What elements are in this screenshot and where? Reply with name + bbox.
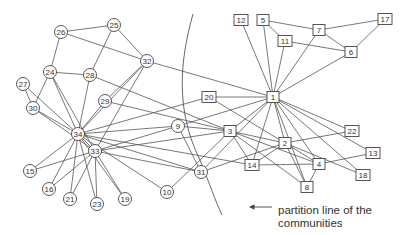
node-label: 21 (66, 195, 75, 204)
node-34: 34 (72, 128, 85, 141)
node-label: 11 (281, 37, 290, 46)
node-label: 34 (74, 130, 83, 139)
node-label: 15 (26, 167, 35, 176)
node-label: 20 (205, 93, 214, 102)
edge-3-4 (230, 131, 319, 164)
node-9: 9 (172, 120, 185, 133)
node-label: 23 (93, 200, 102, 209)
partition-annotation: partition line of the communities (278, 204, 406, 230)
edge-1-2 (273, 97, 285, 143)
node-label: 26 (57, 28, 66, 37)
node-6: 6 (345, 47, 357, 58)
node-19: 19 (119, 193, 132, 206)
annotation-line-2: communities (278, 217, 406, 230)
node-33: 33 (89, 145, 102, 158)
node-label: 32 (143, 57, 152, 66)
edge-34-15 (30, 134, 78, 171)
node-label: 22 (348, 127, 357, 136)
node-2: 2 (279, 138, 291, 149)
node-label: 31 (197, 168, 206, 177)
edge-33-19 (95, 151, 125, 199)
node-22: 22 (345, 126, 359, 137)
node-label: 4 (317, 160, 322, 169)
node-label: 2 (283, 139, 288, 148)
edge-20-2 (209, 97, 285, 143)
node-14: 14 (245, 160, 259, 171)
node-29: 29 (99, 95, 112, 108)
node-10: 10 (161, 186, 174, 199)
node-3: 3 (224, 126, 236, 137)
edge-11-6 (285, 41, 351, 52)
node-28: 28 (84, 69, 97, 82)
node-label: 25 (110, 21, 119, 30)
node-1: 1 (267, 92, 279, 103)
node-24: 24 (44, 66, 57, 79)
edge-34-16 (49, 134, 78, 189)
edge-33-21 (70, 151, 95, 199)
node-label: 13 (369, 149, 378, 158)
node-label: 24 (46, 68, 55, 77)
edge-6-1 (273, 52, 351, 97)
node-label: 6 (349, 48, 354, 57)
node-18: 18 (356, 170, 370, 181)
node-21: 21 (64, 193, 77, 206)
node-7: 7 (313, 25, 325, 36)
edge-14-4 (252, 164, 319, 165)
node-label: 30 (29, 104, 38, 113)
node-label: 17 (381, 15, 390, 24)
node-label: 1 (271, 93, 276, 102)
edge-30-34 (33, 108, 78, 134)
node-8: 8 (301, 182, 313, 193)
node-26: 26 (55, 26, 68, 39)
node-label: 29 (101, 97, 110, 106)
node-4: 4 (313, 159, 325, 170)
node-label: 10 (163, 188, 172, 197)
node-25: 25 (108, 19, 121, 32)
node-label: 8 (305, 183, 310, 192)
edge-2-22 (285, 131, 352, 143)
node-label: 5 (261, 16, 266, 25)
node-17: 17 (378, 14, 392, 25)
graph-canvas: 2625322428273029343391516212319103112571… (0, 0, 406, 235)
node-label: 9 (176, 122, 181, 131)
edge-10-3 (167, 131, 230, 192)
edge-4-13 (319, 153, 373, 164)
node-label: 16 (45, 185, 54, 194)
edge-26-25 (61, 25, 114, 32)
node-label: 12 (237, 16, 246, 25)
edge-9-3 (178, 126, 230, 131)
node-31: 31 (195, 166, 208, 179)
network-diagram: 2625322428273029343391516212319103112571… (0, 0, 406, 235)
node-label: 7 (317, 26, 322, 35)
edge-25-28 (90, 25, 114, 75)
node-label: 19 (121, 195, 130, 204)
node-13: 13 (366, 148, 380, 159)
node-30: 30 (27, 102, 40, 115)
node-label: 3 (228, 127, 233, 136)
edge-33-31 (95, 151, 201, 172)
node-5: 5 (257, 15, 269, 26)
node-label: 33 (91, 147, 100, 156)
node-20: 20 (202, 92, 216, 103)
node-23: 23 (91, 198, 104, 211)
edge-28-34 (78, 75, 90, 134)
node-16: 16 (43, 183, 56, 196)
edge-24-34 (50, 72, 78, 134)
node-label: 28 (86, 71, 95, 80)
node-label: 18 (359, 171, 368, 180)
node-11: 11 (278, 36, 292, 47)
node-15: 15 (24, 165, 37, 178)
annotation-line-1: partition line of the (278, 204, 406, 217)
node-27: 27 (17, 78, 30, 91)
node-label: 14 (248, 161, 257, 170)
node-label: 27 (19, 80, 28, 89)
node-32: 32 (141, 55, 154, 68)
node-12: 12 (234, 15, 248, 26)
